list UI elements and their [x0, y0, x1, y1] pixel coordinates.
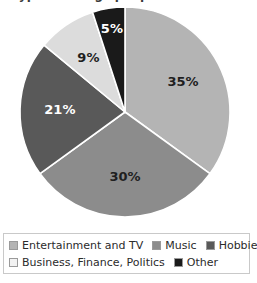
pie-plot-area: 35% 30% 21% 9% 5%	[0, 0, 257, 231]
legend-item-other[interactable]: Other	[174, 257, 218, 268]
legend-label: Business, Finance, Politics	[22, 257, 165, 268]
pie-label-business-finance-politics: 9%	[77, 50, 99, 65]
legend-item-business-finance-politics[interactable]: Business, Finance, Politics	[9, 257, 165, 268]
legend-item-music[interactable]: Music	[152, 240, 196, 251]
legend-swatch-icon	[206, 241, 215, 250]
pie-label-entertainment-and-tv: 35%	[167, 74, 198, 89]
legend-item-entertainment-and-tv[interactable]: Entertainment and TV	[9, 240, 143, 251]
legend-row-2: Business, Finance, Politics Other	[9, 254, 245, 271]
pie-label-hobbies: 21%	[44, 102, 75, 117]
pie-label-other: 5%	[101, 21, 123, 36]
pie-label-music: 30%	[109, 169, 140, 184]
legend-swatch-icon	[9, 258, 18, 267]
chart-legend: Entertainment and TV Music Hobbies Busin…	[3, 233, 250, 274]
legend-label: Hobbies	[219, 240, 257, 251]
legend-label: Entertainment and TV	[22, 240, 143, 251]
legend-swatch-icon	[174, 258, 183, 267]
legend-item-hobbies[interactable]: Hobbies	[206, 240, 257, 251]
legend-row-1: Entertainment and TV Music Hobbies	[9, 237, 245, 254]
legend-swatch-icon	[152, 241, 161, 250]
legend-label: Other	[187, 257, 218, 268]
legend-swatch-icon	[9, 241, 18, 250]
pie-chart-figure: Types of blogs people read most frequent…	[0, 0, 257, 283]
pie-svg: 35% 30% 21% 9% 5%	[0, 0, 257, 231]
legend-label: Music	[165, 240, 196, 251]
